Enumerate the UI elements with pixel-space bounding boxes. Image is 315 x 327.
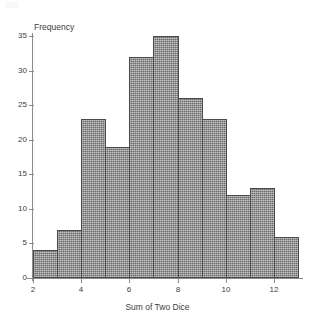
x-tick-mark — [129, 279, 130, 283]
y-tick-label: 30 — [0, 67, 27, 75]
y-tick-label: 5 — [0, 239, 27, 247]
x-tick-mark — [226, 279, 227, 283]
y-tick-label: 20 — [0, 136, 27, 144]
y-tick-label: 0 — [0, 274, 27, 282]
histogram-bar — [202, 119, 227, 278]
x-tick-mark — [33, 279, 34, 283]
y-tick-label: 35 — [0, 32, 27, 40]
x-tick-label: 12 — [262, 285, 286, 294]
y-axis-label: Frequency — [34, 22, 74, 32]
x-axis-label: Sum of Two Dice — [0, 302, 315, 312]
x-tick-label: 4 — [69, 285, 93, 294]
histogram-bar — [226, 195, 251, 278]
histogram-bar — [57, 230, 82, 278]
histogram-bar — [33, 250, 58, 278]
x-tick-label: 8 — [166, 285, 190, 294]
histogram-bar — [81, 119, 106, 278]
y-tick-label: 25 — [0, 101, 27, 109]
x-tick-mark — [178, 279, 179, 283]
x-axis-line — [27, 278, 303, 279]
plot-area — [33, 36, 298, 278]
x-tick-label: 6 — [117, 285, 141, 294]
x-tick-mark — [81, 279, 82, 283]
y-tick-label: 10 — [0, 205, 27, 213]
histogram-bar — [105, 147, 130, 278]
x-tick-label: 2 — [21, 285, 45, 294]
y-tick-label: 15 — [0, 170, 27, 178]
histogram-bar — [250, 188, 275, 278]
x-tick-label: 10 — [214, 285, 238, 294]
histogram-bar — [274, 237, 299, 278]
histogram-bar — [178, 98, 203, 278]
histogram-bar — [153, 36, 178, 278]
scan-artifact — [6, 2, 18, 8]
x-tick-mark — [274, 279, 275, 283]
histogram-chart: Frequency 05101520253035 24681012 Sum of… — [0, 0, 315, 327]
histogram-bar — [129, 57, 154, 278]
